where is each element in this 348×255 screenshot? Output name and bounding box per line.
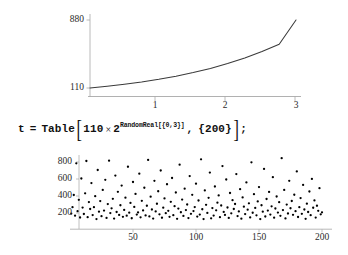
scatter-point <box>231 199 233 201</box>
scatter-point <box>128 212 130 214</box>
top-plot-ytick-label-110: 110 <box>60 83 84 93</box>
scatter-point <box>218 194 220 196</box>
scatter-point <box>194 206 196 208</box>
scatter-point <box>204 189 206 191</box>
scatter-point <box>274 207 276 209</box>
scatter-point <box>137 211 139 213</box>
scatter-point <box>207 197 209 199</box>
scatter-point <box>119 204 121 206</box>
scatter-point <box>122 216 124 218</box>
scatter-point <box>279 215 281 217</box>
scatter-point <box>306 203 308 205</box>
scatter-point <box>195 183 197 185</box>
top-plot-xtick-label-2: 2 <box>215 101 235 111</box>
scatter-point <box>161 217 163 219</box>
scatter-point <box>307 211 309 213</box>
scatter-point <box>114 174 116 176</box>
scatter-point <box>294 210 296 212</box>
scatter-point <box>321 211 323 213</box>
scatter-ytick-label-200: 200 <box>46 208 72 218</box>
scatter-point <box>289 207 291 209</box>
scatter-point <box>318 187 320 189</box>
scatter-point <box>139 216 141 218</box>
scatter-point <box>107 203 109 205</box>
scatter-point <box>103 209 105 211</box>
scatter-point <box>136 213 138 215</box>
scatter-point <box>310 214 312 216</box>
scatter-ytick-label-600: 600 <box>46 174 72 184</box>
scatter-point <box>129 202 131 204</box>
scatter-point <box>146 205 148 207</box>
scatter-point <box>291 200 293 202</box>
expr-power-base: 2 <box>113 123 120 135</box>
scatter-point <box>293 194 295 196</box>
mathematica-input-expression[interactable]: t = Table [ 110 × 2RandomReal[{0,3}] , {… <box>18 116 247 142</box>
exponential-curve-path <box>90 20 296 88</box>
expr-terminator: ; <box>240 123 247 135</box>
scatter-point <box>148 215 150 217</box>
scatter-point <box>297 216 299 218</box>
scatter-point <box>281 157 283 159</box>
scatter-point <box>252 212 254 214</box>
scatter-point <box>181 198 183 200</box>
scatter-point <box>245 181 247 183</box>
scatter-point <box>228 217 230 219</box>
scatter-point <box>298 206 300 208</box>
scatter-point <box>156 203 158 205</box>
scatter-point <box>192 210 194 212</box>
scatter-point <box>250 161 252 163</box>
scatter-point <box>177 207 179 209</box>
scatter-point <box>264 215 266 217</box>
scatter-point <box>178 164 180 166</box>
scatter-point <box>299 197 301 199</box>
scatter-point <box>134 193 136 195</box>
scatter-point <box>216 201 218 203</box>
scatter-point <box>278 201 280 203</box>
scatter-point <box>104 179 106 181</box>
scatter-point-group <box>70 157 323 220</box>
expr-power-term: 2RandomReal[{0,3}] <box>113 123 184 135</box>
top-plot-ytick-label-880: 880 <box>60 15 84 25</box>
scatter-point <box>211 207 213 209</box>
scatter-point <box>113 217 115 219</box>
scatter-point <box>83 213 85 215</box>
scatter-point <box>270 205 272 207</box>
scatter-point <box>132 181 134 183</box>
scatter-point <box>117 191 119 193</box>
scatter-point <box>157 190 159 192</box>
scatter-point <box>79 216 81 218</box>
scatter-point <box>229 192 231 194</box>
scatter-point <box>76 210 78 212</box>
scatter-xtick-label-150: 150 <box>246 233 272 243</box>
scatter-point <box>186 203 188 205</box>
scatter-point <box>267 209 269 211</box>
expr-function-name: Table <box>41 123 75 135</box>
scatter-point <box>147 159 149 161</box>
scatter-point <box>187 217 189 219</box>
expr-comma: , <box>185 123 196 135</box>
scatter-xtick-label-100: 100 <box>183 233 209 243</box>
scatter-point <box>214 185 216 187</box>
scatter-point <box>163 197 165 199</box>
scatter-point <box>173 205 175 207</box>
scatter-point <box>286 203 288 205</box>
scatter-xtick-label-200: 200 <box>309 233 335 243</box>
scatter-point <box>141 200 143 202</box>
scatter-point <box>320 213 322 215</box>
top-plot-xtick-label-3: 3 <box>286 101 306 111</box>
scatter-point <box>205 204 207 206</box>
random-sample-scatter-plot: 800 600 400 200 50 100 150 200 <box>0 145 348 255</box>
scatter-point <box>199 213 201 215</box>
scatter-point <box>126 215 128 217</box>
scatter-point <box>151 208 153 210</box>
scatter-point <box>243 205 245 207</box>
scatter-point <box>282 209 284 211</box>
expr-coefficient: 110 <box>83 123 103 135</box>
scatter-point <box>257 200 259 202</box>
scatter-point <box>80 177 82 179</box>
scatter-point <box>185 209 187 211</box>
scatter-point <box>138 173 140 175</box>
scatter-point <box>238 210 240 212</box>
scatter-point <box>317 210 319 212</box>
scatter-point <box>124 197 126 199</box>
